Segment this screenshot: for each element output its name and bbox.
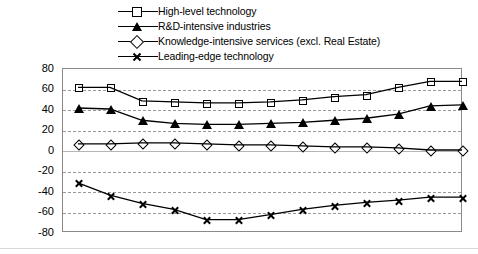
chart-plot-region: 806040200-20-40-60-80 [0,0,478,254]
y-tick-label: 20 [42,124,54,135]
y-tick-label: -80 [38,227,54,238]
y-tick-label: 0 [48,145,54,156]
y-tick-label: 80 [42,63,54,74]
y-tick-label: -60 [38,206,54,217]
bottom-divider [0,248,478,249]
series-line [78,183,462,220]
y-axis-tick-labels: 806040200-20-40-60-80 [0,0,58,254]
series-line [78,81,462,103]
y-tick-label: -40 [38,186,54,197]
y-tick-label: -20 [38,165,54,176]
y-tick-label: 60 [42,83,54,94]
series-line [78,105,462,124]
chart-figure: High-level technology R&D-intensive indu… [0,0,478,254]
series-lines [62,68,462,232]
series-line [78,143,462,150]
y-tick-label: 40 [42,104,54,115]
